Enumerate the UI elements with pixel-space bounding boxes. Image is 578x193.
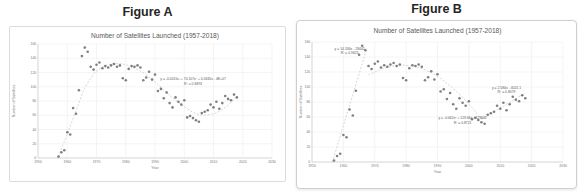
gridlines: [312, 42, 563, 162]
fit-equation-annotation-1: y = 14.536x - 28442R² = 0.9625: [335, 47, 365, 55]
svg-text:140: 140: [31, 56, 37, 60]
svg-text:2030: 2030: [559, 164, 567, 168]
svg-text:1960: 1960: [63, 160, 71, 164]
svg-text:2000: 2000: [465, 164, 473, 168]
svg-text:2000: 2000: [180, 160, 188, 164]
tick-labels: 1950196019701980199020002010202020300204…: [305, 40, 567, 168]
x-axis-label: Year: [434, 170, 442, 174]
scatter-points: [333, 45, 527, 162]
figure-b-chart-card: 1950196019701980199020002010202020300204…: [296, 20, 577, 189]
svg-text:1990: 1990: [434, 164, 442, 168]
fit-equation-annotation-3: y = 2.584x - 4021.1R² = 0.8079: [492, 86, 521, 94]
scatter-points: [57, 46, 238, 158]
svg-text:R² = 0.8721: R² = 0.8721: [454, 121, 472, 125]
figure-a-scatter-chart: 1950196019701980199020002010202020300204…: [10, 27, 285, 181]
svg-text:1970: 1970: [93, 160, 101, 164]
gridlines: [38, 44, 272, 158]
svg-text:120: 120: [305, 70, 311, 74]
svg-text:R² = 0.8079: R² = 0.8079: [498, 90, 516, 94]
svg-text:20: 20: [306, 145, 310, 149]
svg-text:1970: 1970: [371, 164, 379, 168]
svg-text:y = -0.0011x³ + 70.107x² + 0.0: y = -0.0011x³ + 70.107x² + 0.0345x - 4E+…: [160, 77, 226, 81]
svg-text:y = 14.536x - 28442: y = 14.536x - 28442: [335, 47, 365, 51]
trendline-quadratic-fit-mid: [369, 65, 482, 118]
y-axis-label: Number of Satellites: [299, 86, 303, 119]
chart-title: Number of Satellites Launched (1957-2018…: [374, 27, 502, 35]
svg-text:80: 80: [306, 100, 310, 104]
svg-text:100: 100: [305, 85, 311, 89]
svg-text:20: 20: [32, 142, 36, 146]
svg-text:1980: 1980: [122, 160, 130, 164]
figure-a-caption: Figure A: [9, 0, 286, 26]
fit-equation-annotation-1: y = -0.0011x³ + 70.107x² + 0.0345x - 4E+…: [160, 77, 226, 85]
svg-text:2020: 2020: [528, 164, 536, 168]
svg-text:2020: 2020: [239, 160, 247, 164]
worksheet-page: Figure A 1950196019701980199020002010202…: [0, 0, 578, 193]
svg-text:60: 60: [32, 113, 36, 117]
svg-text:160: 160: [31, 42, 37, 46]
svg-text:60: 60: [306, 115, 310, 119]
figure-b: Figure B 1950196019701980199020002010202…: [296, 0, 577, 189]
svg-text:1990: 1990: [151, 160, 159, 164]
svg-text:R² = 0.9625: R² = 0.9625: [341, 51, 359, 55]
chart-title: Number of Satellites Launched (1957-2018…: [91, 32, 219, 40]
y-axis-label: Number of Satellites: [12, 85, 16, 118]
svg-text:160: 160: [305, 40, 311, 44]
x-axis-label: Year: [151, 166, 159, 170]
svg-text:y = -0.062x² + 123.66x - 12366: y = -0.062x² + 123.66x - 123662: [438, 116, 486, 120]
svg-text:0: 0: [308, 160, 310, 164]
svg-text:R² = 0.8493: R² = 0.8493: [184, 82, 202, 86]
svg-text:120: 120: [31, 71, 37, 75]
svg-text:1960: 1960: [340, 164, 348, 168]
figure-b-scatter-chart: 1950196019701980199020002010202020300204…: [297, 21, 576, 188]
figure-a-chart-card: 1950196019701980199020002010202020300204…: [9, 26, 286, 182]
fit-equation-annotation-2: y = -0.062x² + 123.66x - 123662R² = 0.87…: [438, 116, 486, 124]
figure-a: Figure A 1950196019701980199020002010202…: [9, 0, 286, 182]
svg-text:2010: 2010: [496, 164, 504, 168]
svg-text:140: 140: [305, 55, 311, 59]
svg-text:0: 0: [34, 156, 36, 160]
svg-text:2030: 2030: [268, 160, 276, 164]
svg-text:80: 80: [32, 99, 36, 103]
svg-text:y = 2.584x - 4021.1: y = 2.584x - 4021.1: [492, 86, 521, 90]
svg-text:100: 100: [31, 85, 37, 89]
svg-text:40: 40: [306, 130, 310, 134]
trendline-linear-fit-early: [332, 48, 367, 162]
svg-text:2010: 2010: [210, 160, 218, 164]
figure-b-caption: Figure B: [296, 0, 577, 20]
svg-text:40: 40: [32, 128, 36, 132]
svg-text:1980: 1980: [402, 164, 410, 168]
svg-text:1950: 1950: [308, 164, 316, 168]
svg-text:1950: 1950: [34, 160, 42, 164]
